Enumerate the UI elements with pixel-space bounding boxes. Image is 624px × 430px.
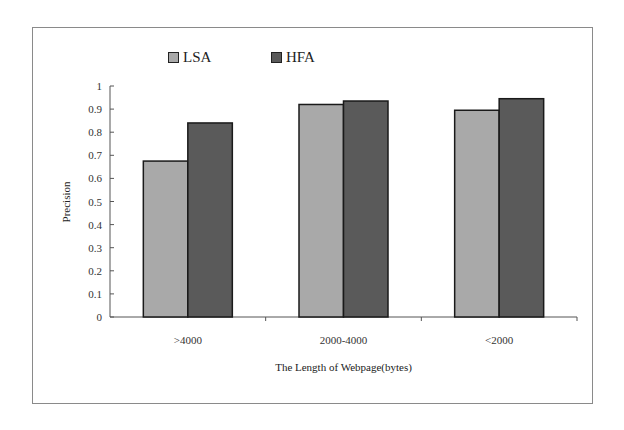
y-tick-label: 0.6 xyxy=(88,172,102,184)
bar-lsa xyxy=(299,104,344,317)
x-category-label: 2000-4000 xyxy=(320,334,368,346)
y-tick-label: 0.7 xyxy=(88,149,102,161)
y-tick-label: 1 xyxy=(97,80,103,92)
bar-chart: 00.10.20.30.40.50.60.70.80.91>40002000-4… xyxy=(0,0,624,430)
x-category-label: >4000 xyxy=(174,334,203,346)
y-tick-label: 0 xyxy=(97,311,103,323)
y-tick-label: 0.5 xyxy=(88,196,102,208)
bar-lsa xyxy=(455,110,500,317)
y-tick-label: 0.2 xyxy=(88,265,102,277)
y-tick-label: 0.3 xyxy=(88,242,102,254)
bar-hfa xyxy=(344,101,389,317)
bar-lsa xyxy=(143,161,188,317)
y-tick-label: 0.4 xyxy=(88,219,102,231)
y-tick-label: 0.1 xyxy=(88,288,102,300)
y-tick-label: 0.9 xyxy=(88,103,102,115)
x-category-label: <2000 xyxy=(485,334,514,346)
y-axis-title: Precision xyxy=(60,181,72,222)
bar-hfa xyxy=(499,99,543,317)
x-axis-title: The Length of Webpage(bytes) xyxy=(275,361,412,374)
bar-hfa xyxy=(188,123,233,317)
y-tick-label: 0.8 xyxy=(88,126,102,138)
